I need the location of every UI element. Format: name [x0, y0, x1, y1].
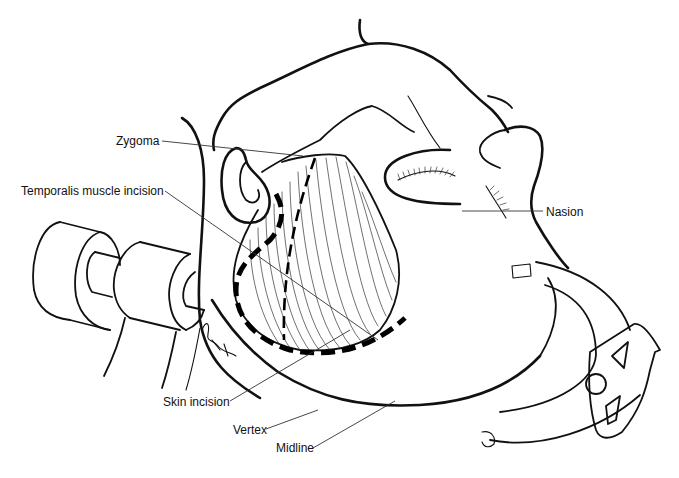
label-zygoma: Zygoma — [116, 134, 159, 148]
label-temporalis-muscle-incision: Temporalis muscle incision — [21, 184, 164, 198]
label-skin-incision: Skin incision — [163, 395, 230, 409]
label-midline: Midline — [276, 441, 314, 455]
label-vertex: Vertex — [233, 423, 267, 437]
craniotomy-illustration: Zygoma Temporalis muscle incision Nasion… — [0, 0, 679, 478]
head-outline — [182, 20, 568, 406]
label-nasion: Nasion — [546, 205, 583, 219]
ear — [222, 148, 270, 223]
headholder-frame-right — [482, 262, 660, 447]
headholder-clamp-left — [33, 222, 204, 390]
